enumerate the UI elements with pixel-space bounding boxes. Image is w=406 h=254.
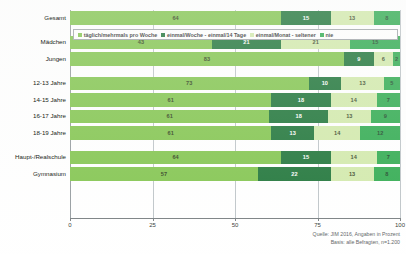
bar-segment: 14 <box>331 93 377 107</box>
category-label: 16-17 Jahre <box>0 112 66 119</box>
bar-segment: 83 <box>70 52 344 66</box>
bar-value-label: 15 <box>303 15 309 21</box>
bar-segment: 8 <box>374 167 400 181</box>
x-tick-label: 0 <box>68 222 71 228</box>
bar-segment: 14 <box>331 151 377 165</box>
bar-segment: 18 <box>271 93 330 107</box>
legend-label: täglich/mehrmals pro Woche <box>84 32 158 38</box>
x-tick <box>400 218 401 221</box>
bar-value-label: 61 <box>166 113 172 119</box>
bar-value-label: 21 <box>313 39 319 45</box>
x-tick <box>235 218 236 221</box>
category-label: Mädchen <box>0 38 66 45</box>
bar-value-label: 7 <box>387 154 390 160</box>
x-tick-label: 75 <box>314 222 321 228</box>
legend-item[interactable]: täglich/mehrmals pro Woche <box>78 32 157 38</box>
bar-segment: 13 <box>328 110 370 124</box>
bar-value-label: 13 <box>346 113 352 119</box>
category-label: Gymnasium <box>0 170 66 177</box>
bar-segment: 5 <box>384 77 400 91</box>
category-label: 12-13 Jahre <box>0 79 66 86</box>
x-tick <box>318 218 319 221</box>
bar-row: 7310135 <box>70 77 400 91</box>
bar-segment: 73 <box>70 77 309 91</box>
x-tick-label: 25 <box>149 222 156 228</box>
bar-segment: 22 <box>258 167 331 181</box>
x-tick-label: 100 <box>395 222 405 228</box>
legend-item[interactable]: einmal/Woche - einmal/14 Tage <box>161 32 246 38</box>
x-tick <box>153 218 154 221</box>
legend-label: nie <box>325 32 333 38</box>
bar-value-label: 18 <box>298 97 304 103</box>
bar-row: 6415147 <box>70 151 400 165</box>
legend-swatch-icon <box>78 33 82 37</box>
category-label: 18-19 Jahre <box>0 129 66 136</box>
bar-segment: 15 <box>281 11 331 25</box>
bar-value-label: 61 <box>167 97 173 103</box>
bar-value-label: 15 <box>303 154 309 160</box>
bar-segment: 14 <box>314 126 360 140</box>
bar-segment: 18 <box>269 110 328 124</box>
chart-container: 6415138432121158396273101356118147611813… <box>0 0 406 254</box>
category-label: Gesamt <box>0 14 66 21</box>
bar-value-label: 13 <box>359 80 365 86</box>
bar-value-label: 21 <box>243 39 249 45</box>
bar-value-label: 9 <box>384 113 387 119</box>
bar-segment: 13 <box>341 77 383 91</box>
legend-swatch-icon <box>320 33 324 37</box>
chart-source-note: Quelle: JIM 2016, Angaben in Prozent Bas… <box>313 231 400 246</box>
bar-value-label: 13 <box>290 130 296 136</box>
bar-row: 83962 <box>70 52 400 66</box>
bar-value-label: 8 <box>385 15 388 21</box>
legend-swatch-icon <box>161 33 165 37</box>
bar-segment: 15 <box>281 151 331 165</box>
bar-row: 5722138 <box>70 167 400 181</box>
bar-segment: 12 <box>360 126 400 140</box>
bar-segment: 7 <box>377 151 400 165</box>
bar-value-label: 83 <box>204 56 210 62</box>
bar-value-label: 14 <box>351 154 357 160</box>
bar-segment: 13 <box>331 167 374 181</box>
bar-segment: 10 <box>309 77 342 91</box>
bar-value-label: 18 <box>296 113 302 119</box>
category-label: Jungen <box>0 55 66 62</box>
bar-segment: 64 <box>70 151 281 165</box>
x-tick <box>70 218 71 221</box>
bar-segment: 8 <box>374 11 400 25</box>
bar-segment: 2 <box>393 52 400 66</box>
plot-area: 6415138432121158396273101356118147611813… <box>70 10 400 218</box>
legend-item[interactable]: nie <box>320 32 333 38</box>
bar-value-label: 14 <box>351 97 357 103</box>
bar-value-label: 5 <box>390 80 393 86</box>
bar-row: 6118147 <box>70 93 400 107</box>
bar-value-label: 61 <box>167 130 173 136</box>
bar-segment: 64 <box>70 11 281 25</box>
legend-label: einmal/Woche - einmal/14 Tage <box>167 32 246 38</box>
category-label: Haupt-/Realschule <box>0 153 66 160</box>
bar-segment: 13 <box>271 126 314 140</box>
bar-value-label: 73 <box>186 80 192 86</box>
bar-value-label: 7 <box>387 97 390 103</box>
bar-value-label: 10 <box>322 80 328 86</box>
bar-value-label: 43 <box>138 39 144 45</box>
bar-segment: 61 <box>70 110 269 124</box>
source-line-1: Quelle: JIM 2016, Angaben in Prozent <box>313 231 400 239</box>
bar-value-label: 57 <box>161 171 167 177</box>
bar-value-label: 9 <box>357 56 360 62</box>
bar-segment: 9 <box>344 52 374 66</box>
legend-item[interactable]: einmal/Monat - seltener <box>250 32 316 38</box>
x-axis: 0255075100 <box>70 218 400 219</box>
legend-label: einmal/Monat - seltener <box>256 32 316 38</box>
bar-value-label: 64 <box>172 15 178 21</box>
bar-value-label: 22 <box>291 171 297 177</box>
bar-value-label: 13 <box>349 171 355 177</box>
bar-value-label: 12 <box>377 130 383 136</box>
bar-value-label: 14 <box>334 130 340 136</box>
bar-value-label: 13 <box>349 15 355 21</box>
bar-segment: 7 <box>377 93 400 107</box>
bar-segment: 61 <box>70 93 271 107</box>
x-tick-label: 50 <box>232 222 239 228</box>
bar-row: 61131412 <box>70 126 400 140</box>
bar-segment: 13 <box>331 11 374 25</box>
bar-value-label: 6 <box>382 56 385 62</box>
